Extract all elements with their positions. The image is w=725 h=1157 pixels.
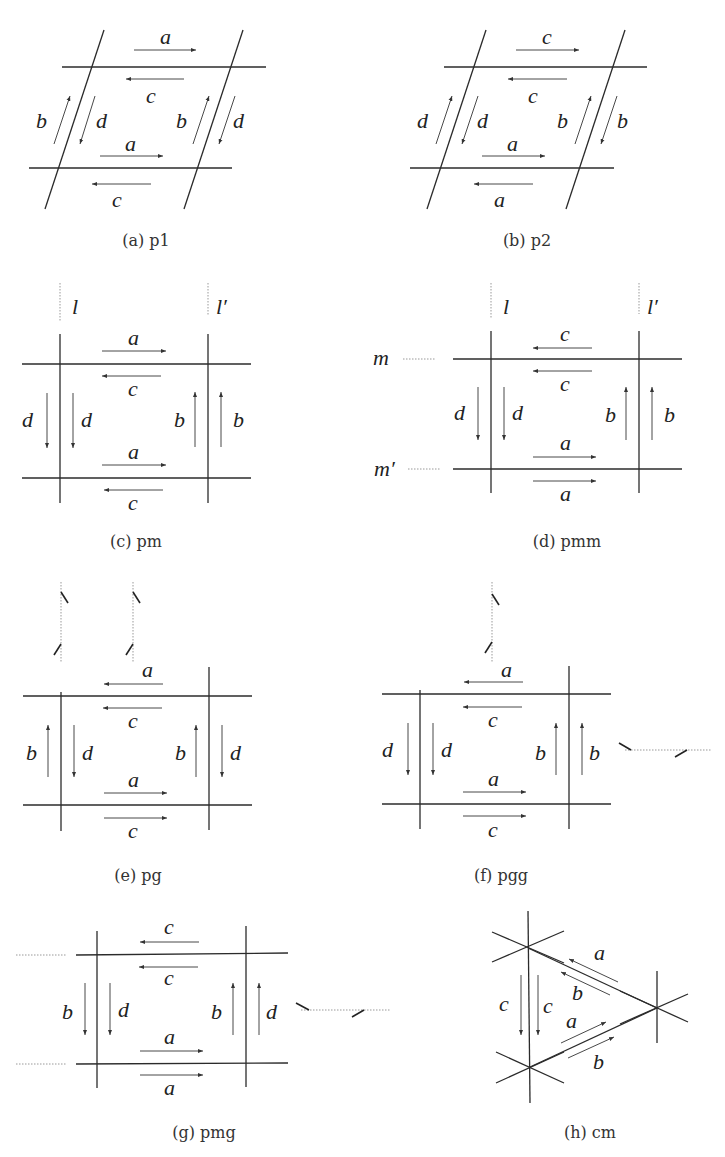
panel-caption: (b) p2 (503, 231, 551, 250)
edge-label: a (128, 439, 139, 464)
panel-p2: c c a a d d b b (b) p2 (410, 24, 647, 250)
edge-label: b (557, 108, 568, 133)
edge-label: d (382, 737, 394, 762)
panel-pm: l l′ a c a c d d b b (c) pm (22, 283, 251, 551)
edge-label: d (454, 400, 466, 425)
edge-label: b (174, 407, 185, 432)
mirror-label: l (72, 294, 78, 319)
edge-label: c (542, 24, 552, 49)
edge-label: b (211, 999, 222, 1024)
edge-label: b (535, 740, 546, 765)
panel-caption: (e) pg (114, 866, 162, 885)
edge-label: c (528, 83, 538, 108)
panel-cm: a b a b c c (h) cm (492, 911, 688, 1142)
edge-label: d (230, 740, 242, 765)
edge-label: c (128, 376, 138, 401)
panel-pmm: l l′ m m′ c c a a d d b b (d) pmm (373, 283, 682, 551)
edge-label: c (112, 187, 122, 212)
edge-label: b (175, 740, 186, 765)
edge-label: c (560, 321, 570, 346)
arrow-left-outer (436, 96, 452, 144)
arrow-right-inner (575, 96, 591, 144)
edge-label: a (128, 767, 139, 792)
glide-mark-icon (352, 1010, 364, 1017)
mirror-label: m (373, 345, 389, 370)
mirror-label: l′ (216, 294, 228, 319)
panel-caption: (f) pgg (474, 866, 528, 885)
glide-mark-icon (492, 594, 499, 605)
edge-label: b (572, 980, 583, 1005)
arrow-lower-outer (568, 1037, 614, 1058)
arrow-left-inner (80, 96, 95, 144)
edge-label: c (128, 708, 138, 733)
edge-label: c (128, 818, 138, 843)
edge-label: a (560, 481, 571, 506)
glide-mark-icon (296, 1003, 309, 1010)
edge-label: c (164, 914, 174, 939)
edge-label: a (594, 940, 605, 965)
edge-label: a (494, 187, 505, 212)
edge-label: b (36, 108, 47, 133)
edge-label: a (501, 657, 512, 682)
panel-pmg: c c a a b d b d (g) pmg (16, 914, 390, 1142)
edge-label: a (142, 657, 153, 682)
panel-caption: (d) pmm (533, 532, 601, 551)
edge-label: d (512, 400, 524, 425)
edge-label: c (488, 707, 498, 732)
arrow-left-outer (54, 96, 70, 144)
edge-label: c (488, 817, 498, 842)
arrow-right-outer (601, 96, 617, 144)
edge-label: d (96, 108, 108, 133)
edge-label: a (160, 24, 171, 49)
edge-label: b (62, 999, 73, 1024)
mirror-label: l (503, 294, 509, 319)
glide-mark-icon (54, 644, 61, 655)
edge-label: c (146, 83, 156, 108)
edge-label: a (125, 131, 136, 156)
edge-label: a (566, 1008, 577, 1033)
mirror-label: m′ (374, 456, 396, 481)
edge-label: d (266, 999, 278, 1024)
edge-label: d (118, 997, 130, 1022)
edge-label: c (164, 965, 174, 990)
edge-label: b (589, 740, 600, 765)
glide-mark-icon (619, 743, 631, 750)
edge-label: c (543, 993, 553, 1018)
glide-mark-icon (485, 642, 492, 653)
arrow-left-inner (462, 96, 478, 144)
panel-pgg: a c a c d d b b (f) pgg (382, 582, 712, 885)
edge-label: c (560, 371, 570, 396)
edge-label: a (507, 131, 518, 156)
glide-mark-icon (133, 592, 140, 603)
edge-label: a (560, 430, 571, 455)
panel-caption: (h) cm (564, 1123, 616, 1142)
edge-label: b (664, 402, 675, 427)
glide-mark-icon (126, 644, 133, 655)
edge-label: c (128, 490, 138, 515)
edge-label: a (164, 1075, 175, 1100)
glide-mark-icon (61, 592, 68, 603)
panel-caption: (c) pm (110, 532, 162, 551)
edge-label: b (233, 407, 244, 432)
glide-mark-icon (675, 750, 687, 757)
edge-label: d (477, 108, 489, 133)
panel-caption: (a) p1 (122, 231, 170, 250)
edge-label: b (176, 108, 187, 133)
arrow-right-inner (193, 96, 209, 144)
edge-label: d (441, 737, 453, 762)
edge-label: d (417, 108, 429, 133)
panel-pg: a c a c b d b d (e) pg (23, 582, 252, 885)
wallpaper-groups-figure: a c a c b d b d (a) p1 c c a a d d b b (… (0, 0, 725, 1157)
panel-caption: (g) pmg (172, 1123, 235, 1142)
mirror-label: l′ (647, 294, 659, 319)
edge-label: b (593, 1049, 604, 1074)
edge-label: a (128, 325, 139, 350)
edge-label: b (605, 402, 616, 427)
edge-label: a (164, 1024, 175, 1049)
panel-p1: a c a c b d b d (a) p1 (29, 24, 266, 250)
edge-label: d (82, 740, 94, 765)
edge-label: c (499, 991, 509, 1016)
edge-label: a (488, 766, 499, 791)
edge-label: d (81, 407, 93, 432)
edge-label: b (26, 740, 37, 765)
